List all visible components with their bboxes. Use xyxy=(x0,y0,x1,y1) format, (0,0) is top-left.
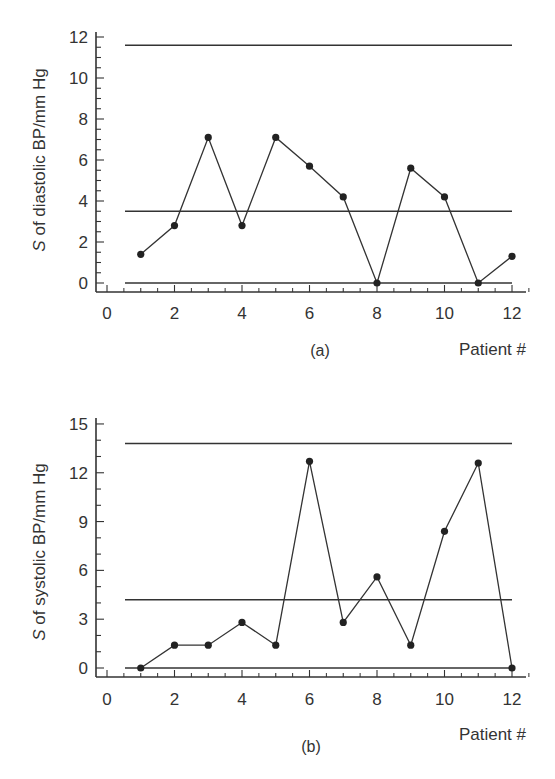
data-series-b xyxy=(137,458,515,672)
data-point-marker xyxy=(508,253,515,260)
y-axis-title-a: S of diastolic BP/mm Hg xyxy=(30,68,49,251)
x-tick-label: 8 xyxy=(372,304,381,323)
y-tick-label: 0 xyxy=(79,274,88,293)
data-point-marker xyxy=(171,642,178,649)
data-point-marker xyxy=(475,279,482,286)
x-tick-label: 10 xyxy=(435,690,454,709)
y-tick-label: 8 xyxy=(79,110,88,129)
x-tick-label: 6 xyxy=(305,304,314,323)
y-tick-label: 2 xyxy=(79,233,88,252)
axes-b: 03691215024681012 xyxy=(69,415,529,709)
x-tick-label: 10 xyxy=(435,304,454,323)
y-tick-label: 0 xyxy=(79,659,88,678)
panel-label-a: (a) xyxy=(310,342,330,359)
x-axis-title-a: Patient # xyxy=(459,340,527,359)
panel-label-b: (b) xyxy=(301,738,321,755)
data-point-marker xyxy=(373,573,380,580)
y-tick-label: 9 xyxy=(79,513,88,532)
data-point-marker xyxy=(340,619,347,626)
data-point-marker xyxy=(137,251,144,258)
y-axis-title-b: S of systolic BP/mm Hg xyxy=(30,463,49,641)
data-line xyxy=(141,461,512,668)
y-tick-label: 15 xyxy=(69,415,88,434)
reference-lines-a xyxy=(125,45,512,283)
reference-lines-b xyxy=(125,443,512,668)
x-tick-label: 2 xyxy=(170,304,179,323)
y-tick-label: 3 xyxy=(79,610,88,629)
data-series-a xyxy=(137,134,515,287)
x-tick-label: 8 xyxy=(372,690,381,709)
data-point-marker xyxy=(407,642,414,649)
data-point-marker xyxy=(508,664,515,671)
y-tick-label: 10 xyxy=(69,69,88,88)
y-tick-label: 12 xyxy=(69,464,88,483)
x-tick-label: 0 xyxy=(102,304,111,323)
y-tick-label: 12 xyxy=(69,28,88,47)
chart-panel-a: 024681012024681012 S of diastolic BP/mm … xyxy=(30,28,529,359)
x-tick-label: 12 xyxy=(503,304,522,323)
x-tick-label: 12 xyxy=(503,690,522,709)
y-tick-label: 4 xyxy=(79,192,88,211)
data-point-marker xyxy=(441,528,448,535)
data-point-marker xyxy=(171,222,178,229)
x-tick-label: 6 xyxy=(305,690,314,709)
control-charts-figure: 024681012024681012 S of diastolic BP/mm … xyxy=(0,0,555,779)
data-point-marker xyxy=(205,642,212,649)
axes-a: 024681012024681012 xyxy=(69,28,529,323)
x-tick-label: 4 xyxy=(237,304,246,323)
x-tick-label: 2 xyxy=(170,690,179,709)
data-point-marker xyxy=(306,458,313,465)
data-point-marker xyxy=(238,619,245,626)
y-tick-label: 6 xyxy=(79,561,88,580)
x-tick-label: 0 xyxy=(102,690,111,709)
data-point-marker xyxy=(373,279,380,286)
y-tick-label: 6 xyxy=(79,151,88,170)
x-tick-label: 4 xyxy=(237,690,246,709)
data-point-marker xyxy=(205,134,212,141)
data-point-marker xyxy=(475,459,482,466)
data-line xyxy=(141,137,512,283)
data-point-marker xyxy=(272,642,279,649)
data-point-marker xyxy=(238,222,245,229)
data-point-marker xyxy=(306,163,313,170)
x-axis-title-b: Patient # xyxy=(459,725,527,744)
chart-panel-b: 03691215024681012 S of systolic BP/mm Hg… xyxy=(30,415,529,755)
data-point-marker xyxy=(441,193,448,200)
data-point-marker xyxy=(137,664,144,671)
data-point-marker xyxy=(272,134,279,141)
data-point-marker xyxy=(340,193,347,200)
data-point-marker xyxy=(407,165,414,172)
